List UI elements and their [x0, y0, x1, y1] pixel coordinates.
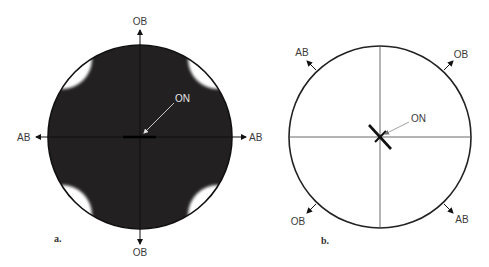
- figure-b: AB OB OB AB ON b.: [289, 46, 471, 246]
- window-lower-right: [188, 185, 248, 245]
- arrow-upper-right-ob: [444, 61, 453, 70]
- window-lower-left: [32, 185, 92, 245]
- arrow-upper-left-ab: [307, 61, 316, 70]
- label-lower-left-ob: OB: [291, 216, 306, 227]
- label-center-on-b: ON: [411, 113, 426, 124]
- figure-canvas: OB OB AB AB ON a. AB OB OB AB ON b.: [0, 0, 489, 267]
- arrow-lower-right-ab: [444, 204, 453, 213]
- arrow-lower-left-ob: [307, 204, 316, 213]
- label-right-ab: AB: [249, 132, 263, 143]
- panel-label-b: b.: [321, 235, 330, 246]
- label-center-on: ON: [175, 93, 190, 104]
- panel-label-a: a.: [54, 233, 62, 244]
- figure-a: OB OB AB AB ON a.: [17, 16, 263, 258]
- window-upper-right: [188, 29, 248, 89]
- label-upper-right-ob: OB: [454, 49, 469, 60]
- label-top-ob: OB: [133, 16, 148, 27]
- window-upper-left: [32, 29, 92, 89]
- label-upper-left-ab: AB: [295, 47, 309, 58]
- label-left-ab: AB: [17, 132, 31, 143]
- label-lower-right-ab: AB: [455, 214, 469, 225]
- label-bottom-ob: OB: [133, 247, 148, 258]
